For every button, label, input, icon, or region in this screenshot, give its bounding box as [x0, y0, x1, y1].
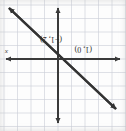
x-axis-label: x — [5, 48, 8, 55]
graph-canvas — [0, 0, 126, 131]
coordinate-graph-figure: (1, 0) (−1, 2) x — [0, 0, 126, 131]
rotated-graph-plate: (1, 0) (−1, 2) x — [0, 0, 126, 131]
point-label-1: (1, 0) — [75, 45, 92, 53]
point-label-2: (−1, 2) — [40, 35, 62, 43]
grid-horizontal-lines — [0, 5, 126, 127]
